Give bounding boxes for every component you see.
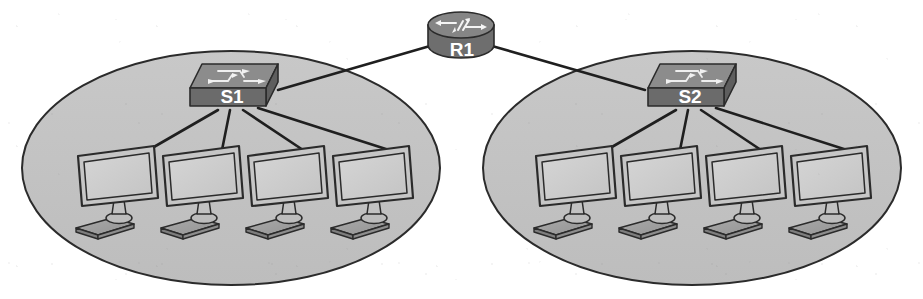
network-topology-diagram: S1 S2 R1: [0, 0, 923, 299]
switch-s2-label: S2: [678, 86, 701, 107]
diagram-canvas: S1 S2 R1: [0, 0, 923, 299]
switch-s2[interactable]: S2: [648, 64, 736, 107]
switch-s1-label: S1: [220, 86, 244, 107]
router-r1-label: R1: [450, 39, 475, 60]
router-r1[interactable]: R1: [428, 12, 494, 60]
